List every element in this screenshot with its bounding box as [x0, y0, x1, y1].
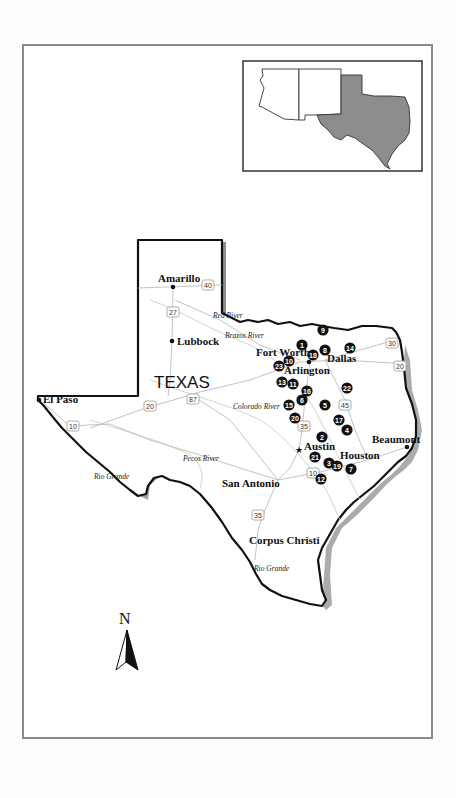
site-marker-number: 2 — [320, 434, 324, 441]
site-marker-number: 6 — [300, 397, 304, 404]
site-marker[interactable]: 7 — [345, 463, 356, 474]
city: Corpus Christi — [249, 534, 320, 546]
site-marker-number: 16 — [303, 388, 311, 395]
site-marker-number: 10 — [285, 358, 293, 365]
north-arrow-right-half — [126, 630, 138, 670]
city: Houston — [340, 449, 380, 461]
site-marker-number: 20 — [291, 415, 299, 422]
highway-number: 20 — [146, 403, 154, 410]
site-marker-number: 4 — [345, 427, 349, 434]
site-marker[interactable]: 14 — [344, 342, 355, 353]
inset-new-mexico — [299, 69, 341, 120]
site-marker-number: 18 — [309, 352, 317, 359]
site-marker[interactable]: 18 — [307, 349, 318, 360]
river-label: Rio Grande — [93, 472, 130, 481]
north-label: N — [119, 610, 131, 627]
site-marker[interactable]: 23 — [273, 360, 284, 371]
highway-number: 45 — [341, 402, 349, 409]
city-dot-icon — [170, 339, 175, 344]
river-label: Colorado River — [233, 402, 280, 411]
site-marker[interactable]: 12 — [315, 473, 326, 484]
site-marker-number: 9 — [321, 327, 325, 334]
highway-shield: 35 — [252, 510, 264, 520]
highway-shield: 27 — [167, 307, 179, 317]
site-marker[interactable]: 19 — [331, 460, 342, 471]
city-label: Houston — [340, 449, 380, 461]
highway-number: 40 — [204, 282, 212, 289]
highway-shield: 30 — [386, 338, 398, 348]
highway-shield: 20 — [394, 361, 406, 371]
city: Dallas — [327, 352, 357, 364]
highway-shield: 87 — [187, 394, 199, 404]
site-marker-number: 8 — [323, 347, 327, 354]
city-label: Corpus Christi — [249, 534, 320, 546]
highway-shield: 20 — [144, 401, 156, 411]
site-marker[interactable]: 22 — [341, 382, 352, 393]
highway-number: 30 — [388, 340, 396, 347]
site-marker[interactable]: 5 — [319, 399, 330, 410]
site-marker-number: 11 — [289, 381, 297, 388]
city-label: Lubbock — [177, 335, 220, 347]
state-label: TEXAS — [154, 373, 210, 392]
city-dot-icon — [405, 445, 410, 450]
site-marker[interactable]: 4 — [341, 424, 352, 435]
highway-number: 35 — [254, 512, 262, 519]
city-label: Amarillo — [158, 272, 201, 284]
city: San Antonio — [222, 477, 280, 489]
inset-locator-map — [243, 61, 422, 171]
river-label: Red River — [212, 311, 243, 320]
site-marker[interactable]: 21 — [309, 451, 320, 462]
highway-number: 27 — [169, 309, 177, 316]
highway-number: 10 — [309, 470, 317, 477]
site-marker-number: 12 — [317, 476, 325, 483]
highway-number: 87 — [189, 396, 197, 403]
highway-number: 20 — [396, 363, 404, 370]
site-marker[interactable]: 13 — [276, 376, 287, 387]
city-dot-icon — [37, 398, 42, 403]
site-marker[interactable]: 9 — [317, 324, 328, 335]
city-dot-icon — [171, 285, 176, 290]
site-marker[interactable]: 2 — [316, 431, 327, 442]
city-label: Beaumont — [372, 433, 421, 445]
page: 4027208710302045351035 Red RiverBrazos R… — [0, 0, 456, 798]
river-label: Pecos River — [182, 454, 219, 463]
city-label: San Antonio — [222, 477, 280, 489]
city: El Paso — [37, 393, 79, 405]
site-marker[interactable]: 16 — [301, 385, 312, 396]
site-marker-number: 1 — [300, 342, 304, 349]
north-arrow: N — [116, 610, 138, 670]
north-arrow-left-half — [116, 630, 127, 670]
texas-outline — [38, 240, 416, 606]
river-label: Rio Grande — [253, 564, 290, 573]
site-marker-number: 19 — [333, 463, 341, 470]
site-marker-number: 14 — [346, 345, 354, 352]
capital-star-icon: ★ — [295, 445, 303, 455]
site-marker-number: 7 — [349, 466, 353, 473]
site-marker[interactable]: 10 — [283, 355, 294, 366]
river-label: Brazos River — [225, 331, 264, 340]
site-marker[interactable]: 15 — [283, 399, 294, 410]
site-marker[interactable]: 1 — [296, 339, 307, 350]
highway-number: 10 — [69, 423, 77, 430]
highway-shield: 35 — [298, 421, 310, 431]
site-marker-number: 15 — [285, 402, 293, 409]
site-marker-number: 22 — [343, 385, 351, 392]
site-marker[interactable]: 17 — [333, 414, 344, 425]
highway-shield: 10 — [67, 421, 79, 431]
highway-shield: 45 — [339, 400, 351, 410]
site-marker[interactable]: 20 — [289, 412, 300, 423]
site-marker-number: 5 — [323, 402, 327, 409]
site-marker-number: 13 — [278, 379, 286, 386]
highway-number: 35 — [300, 423, 308, 430]
highway-shield: 40 — [202, 280, 214, 290]
site-marker-number: 23 — [275, 363, 283, 370]
site-marker-number: 3 — [327, 460, 331, 467]
site-marker-number: 17 — [335, 417, 343, 424]
site-marker[interactable]: 8 — [319, 344, 330, 355]
site-marker-number: 21 — [311, 454, 319, 461]
texas-map: 4027208710302045351035 Red RiverBrazos R… — [0, 0, 456, 798]
city-label: El Paso — [43, 393, 79, 405]
city: Lubbock — [170, 335, 220, 347]
site-marker[interactable]: 11 — [287, 378, 298, 389]
city-label: Dallas — [327, 352, 357, 364]
